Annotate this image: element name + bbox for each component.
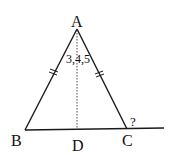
base-line-BC-extended <box>25 128 164 130</box>
side-AB <box>25 29 77 130</box>
vertex-label-D: D <box>72 137 84 154</box>
side-AC <box>77 29 127 129</box>
unknown-angle-label: ? <box>130 114 136 129</box>
triangle-diagram: A B D C 3,4,5 ? <box>0 0 175 155</box>
vertex-label-A: A <box>71 13 83 30</box>
vertex-label-B: B <box>11 132 22 149</box>
vertex-label-C: C <box>122 132 133 149</box>
angle-label: 3,4,5 <box>66 52 90 66</box>
